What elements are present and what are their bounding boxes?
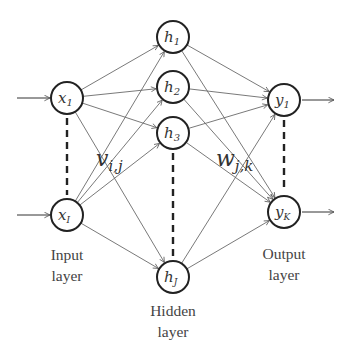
weight-w-symbol: w (216, 146, 235, 171)
edge-x1-hJ (75, 112, 164, 263)
edge-xI-h1 (75, 52, 164, 202)
edge-xI-hJ (81, 223, 159, 268)
weight-label-v: vi,j (96, 146, 123, 175)
node-y1: y1 (268, 84, 300, 116)
edge-hJ-y1 (182, 114, 275, 263)
edge-hJ-yK (187, 221, 270, 269)
node-h1: h1 (157, 21, 189, 53)
node-hJ: hJ (157, 261, 189, 293)
input-layer-label-line1: Input (51, 246, 84, 263)
output-layer-label-line2: layer (269, 266, 301, 283)
hidden-layer-label-line2: layer (158, 323, 190, 340)
svg-text:wj,k: wj,k (216, 146, 253, 175)
edge-h2-y1 (189, 89, 267, 98)
node-h2: h2 (157, 71, 189, 103)
node-xI: xI (51, 199, 83, 231)
output-layer-label-line1: Output (262, 245, 306, 262)
hidden-layer-label: Hidden layer (150, 302, 196, 340)
edge-h1-y1 (187, 45, 269, 92)
weight-w-subscript: j,k (232, 157, 254, 175)
node-x1: x1 (51, 82, 83, 114)
output-layer-label: Output layer (262, 245, 306, 283)
input-layer-label-line2: layer (52, 267, 84, 284)
weight-label-w: wj,k (216, 146, 253, 175)
svg-text:vi,j: vi,j (96, 146, 123, 175)
edge-x1-h1 (81, 45, 158, 90)
node-yK: yK (268, 196, 300, 228)
node-h3: h3 (157, 117, 189, 149)
neural-network-diagram: x1xIh1h2h3hJy1yK vi,j wj,k Input layer H… (0, 0, 348, 357)
edge-x1-h2 (83, 89, 156, 97)
hidden-layer-label-line1: Hidden (150, 302, 196, 319)
edge-h1-yK (182, 51, 275, 198)
weight-v-symbol: v (96, 146, 109, 171)
edge-h3-y1 (188, 105, 267, 129)
input-layer-label: Input layer (51, 246, 84, 284)
edge-x1-h3 (82, 103, 157, 128)
weight-v-subscript: i,j (108, 157, 123, 175)
